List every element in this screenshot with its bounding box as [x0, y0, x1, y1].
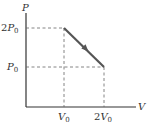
tick-2p0: 2P0 — [1, 22, 19, 35]
tick-2v0: 2V0 — [94, 111, 112, 124]
dashed-guides — [26, 28, 104, 107]
p-axis-label: P — [21, 2, 29, 13]
v-axis-label: V — [138, 101, 147, 112]
pv-diagram: P V 2P0 P0 V0 2V0 — [0, 0, 151, 128]
tick-p0: P0 — [6, 61, 18, 74]
tick-v0: V0 — [58, 111, 70, 124]
